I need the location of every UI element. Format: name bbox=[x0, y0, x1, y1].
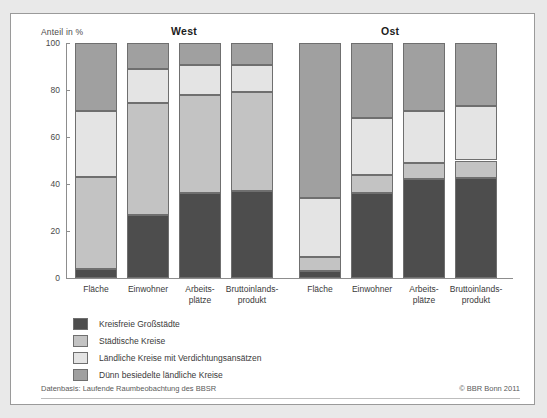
y-tick-40 bbox=[66, 184, 70, 185]
x-axis-line bbox=[66, 278, 513, 279]
plot-area: Anteil in % West Ost 020406080100 Fläche… bbox=[11, 14, 534, 404]
bar-segment-staedtische bbox=[455, 161, 497, 179]
bar-segment-duenn bbox=[403, 43, 445, 111]
bar-segment-laendliche bbox=[299, 198, 341, 257]
y-tick-label-80: 80 bbox=[20, 85, 60, 95]
bar-segment-kreisfreie bbox=[455, 178, 497, 278]
bar-segment-laendliche bbox=[231, 65, 273, 92]
bar-segment-staedtische bbox=[231, 92, 273, 191]
y-tick-100 bbox=[66, 43, 70, 44]
y-tick-label-0: 0 bbox=[20, 273, 60, 283]
bar-segment-duenn bbox=[127, 43, 169, 69]
footer-source: Datenbasis: Laufende Raumbeobachtung des… bbox=[41, 384, 216, 393]
y-tick-label-60: 60 bbox=[20, 132, 60, 142]
stacked-bar bbox=[351, 43, 393, 278]
bar-segment-kreisfreie bbox=[403, 179, 445, 278]
footer-copyright: © BBR Bonn 2011 bbox=[459, 384, 520, 393]
category-label-line: produkt bbox=[434, 295, 518, 306]
bar-segment-laendliche bbox=[127, 69, 169, 103]
y-tick-label-100: 100 bbox=[20, 38, 60, 48]
legend-item-duenn: Dünn besiedelte ländliche Kreise bbox=[73, 367, 262, 383]
bar-segment-duenn bbox=[455, 43, 497, 106]
bar-segment-laendliche bbox=[75, 111, 117, 177]
bar-segment-duenn bbox=[351, 43, 393, 118]
bar-segment-duenn bbox=[179, 43, 221, 65]
bar-segment-laendliche bbox=[351, 118, 393, 174]
bar-segment-duenn bbox=[231, 43, 273, 65]
chart-figure: Anteil in % West Ost 020406080100 Fläche… bbox=[10, 13, 535, 405]
legend-swatch-staedtische bbox=[73, 335, 88, 347]
y-axis-title: Anteil in % bbox=[41, 27, 83, 37]
bar-segment-kreisfreie bbox=[127, 215, 169, 278]
bar-segment-staedtische bbox=[75, 177, 117, 269]
category-label: Bruttoinlands-produkt bbox=[434, 284, 518, 306]
bar-segment-laendliche bbox=[179, 65, 221, 94]
stacked-bar bbox=[127, 43, 169, 278]
panel-title-west: West bbox=[171, 25, 197, 37]
chart-legend: Kreisfreie GroßstädteStädtische KreiseLä… bbox=[73, 316, 262, 384]
bar-segment-kreisfreie bbox=[75, 269, 117, 278]
bar-segment-staedtische bbox=[403, 163, 445, 179]
legend-label-kreisfreie: Kreisfreie Großstädte bbox=[99, 319, 180, 329]
legend-swatch-kreisfreie bbox=[73, 318, 88, 330]
y-tick-20 bbox=[66, 231, 70, 232]
footer-rule bbox=[41, 398, 520, 399]
y-tick-60 bbox=[66, 137, 70, 138]
figure-footer: Datenbasis: Laufende Raumbeobachtung des… bbox=[41, 384, 520, 393]
legend-swatch-laendliche bbox=[73, 352, 88, 364]
bar-segment-staedtische bbox=[127, 103, 169, 215]
bar-segment-kreisfreie bbox=[299, 271, 341, 278]
panel-title-ost: Ost bbox=[381, 25, 399, 37]
bar-segment-duenn bbox=[75, 43, 117, 111]
y-tick-label-40: 40 bbox=[20, 179, 60, 189]
legend-label-laendliche: Ländliche Kreise mit Verdichtungsansätze… bbox=[99, 353, 262, 363]
category-label-line: Bruttoinlands- bbox=[434, 284, 518, 295]
legend-swatch-duenn bbox=[73, 369, 88, 381]
legend-item-kreisfreie: Kreisfreie Großstädte bbox=[73, 316, 262, 332]
bar-segment-staedtische bbox=[351, 175, 393, 194]
y-axis-line bbox=[66, 43, 67, 279]
bar-segment-kreisfreie bbox=[351, 193, 393, 278]
legend-label-staedtische: Städtische Kreise bbox=[99, 336, 165, 346]
category-label-line: produkt bbox=[210, 295, 294, 306]
bar-segment-staedtische bbox=[179, 95, 221, 194]
bar-segment-duenn bbox=[299, 43, 341, 198]
stacked-bar bbox=[75, 43, 117, 278]
stacked-bar bbox=[455, 43, 497, 278]
y-tick-80 bbox=[66, 90, 70, 91]
stacked-bar bbox=[299, 43, 341, 278]
bar-segment-laendliche bbox=[403, 111, 445, 163]
legend-item-staedtische: Städtische Kreise bbox=[73, 333, 262, 349]
bar-segment-laendliche bbox=[455, 106, 497, 160]
legend-label-duenn: Dünn besiedelte ländliche Kreise bbox=[99, 370, 223, 380]
stacked-bar bbox=[403, 43, 445, 278]
y-tick-0 bbox=[66, 278, 70, 279]
stacked-bar bbox=[231, 43, 273, 278]
y-tick-label-20: 20 bbox=[20, 226, 60, 236]
stacked-bar bbox=[179, 43, 221, 278]
bar-segment-staedtische bbox=[299, 257, 341, 271]
bar-segment-kreisfreie bbox=[231, 191, 273, 278]
legend-item-laendliche: Ländliche Kreise mit Verdichtungsansätze… bbox=[73, 350, 262, 366]
bar-segment-kreisfreie bbox=[179, 193, 221, 278]
